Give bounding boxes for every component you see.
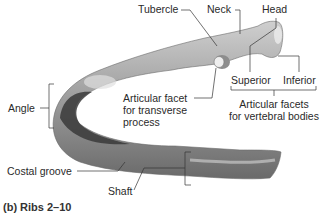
label-articular-facets-vertebral: Articular facets for vertebral bodies: [226, 98, 322, 122]
label-neck: Neck: [207, 3, 231, 15]
label-inferior: Inferior: [283, 74, 316, 86]
label-shaft: Shaft: [108, 185, 133, 197]
label-articular-facet-transverse: Articular facet for transverse process: [123, 92, 187, 128]
label-superior: Superior: [231, 74, 271, 86]
figure-caption: (b) Ribs 2–10: [3, 201, 71, 213]
label-head: Head: [262, 3, 287, 15]
label-angle: Angle: [8, 102, 35, 114]
rib-diagram: Tubercle Neck Head Superior Inferior Art…: [0, 0, 327, 219]
label-tubercle: Tubercle: [138, 3, 178, 15]
label-costal-groove: Costal groove: [7, 165, 72, 177]
